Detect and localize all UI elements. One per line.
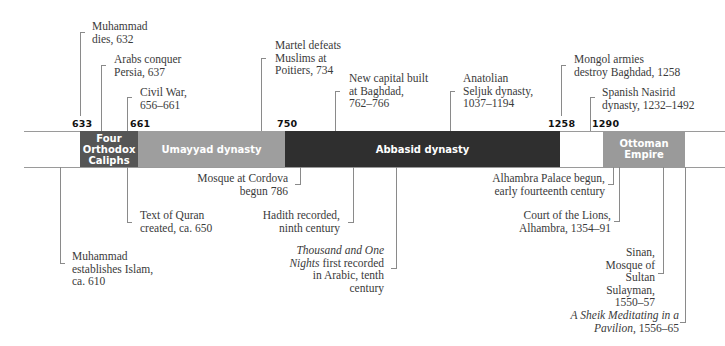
note-line: created, ca. 650 <box>140 222 212 235</box>
note-line: Pavilion, 1556–65 <box>571 322 679 335</box>
note-text: , 1556–65 <box>633 322 679 334</box>
note-line: Sulayman, <box>605 284 655 297</box>
note-line: destroy Baghdad, 1258 <box>574 66 680 79</box>
note-line: establishes Islam, <box>72 263 153 276</box>
note-line: Martel defeats <box>275 39 341 52</box>
year-marker-1290: 1290 <box>592 118 619 129</box>
note-line: century <box>289 282 384 295</box>
leader-line <box>561 65 562 116</box>
note-line: begun 786 <box>197 185 288 198</box>
note-line: 1037–1194 <box>463 97 533 110</box>
leader-line <box>127 97 132 98</box>
event-sinan-mosque: Sinan, Mosque of Sultan Sulayman, 1550–5… <box>605 246 655 309</box>
leader-line <box>101 65 106 66</box>
note-line: Alhambra Palace begun, <box>492 172 605 185</box>
leader-line <box>396 167 397 269</box>
note-line: Hadith recorded, <box>263 209 340 222</box>
year-marker-633: 633 <box>72 118 92 129</box>
leader-line <box>335 91 340 92</box>
event-martel-defeats-muslims: Martel defeats Muslims at Poitiers, 734 <box>275 39 341 77</box>
note-line: Court of the Lions, <box>519 209 611 222</box>
note-line: Mongol armies <box>574 53 680 66</box>
event-civil-war: Civil War, 656–661 <box>140 86 187 111</box>
leader-line <box>590 97 595 98</box>
leader-line <box>300 167 301 185</box>
leader-line <box>127 222 132 223</box>
era-abbasid-dynasty: Abbasid dynasty <box>285 131 560 167</box>
leader-line <box>353 167 354 223</box>
era-label: Abbasid dynasty <box>376 144 470 155</box>
event-quran-text: Text of Quran created, ca. 650 <box>140 209 212 234</box>
note-line: Spanish Nasirid <box>602 86 695 99</box>
note-line: Sinan, <box>605 246 655 259</box>
note-line: Arabs conquer <box>114 53 181 66</box>
leader-line <box>561 65 566 66</box>
note-line: Seljuk dynasty, <box>463 85 533 98</box>
note-line: dies, 632 <box>92 33 148 46</box>
note-line: Persia, 637 <box>114 66 181 79</box>
leader-line <box>608 184 613 185</box>
leader-line <box>60 167 61 264</box>
event-hadith-recorded: Hadith recorded, ninth century <box>263 209 340 234</box>
era-label-line: Orthodox <box>83 144 136 155</box>
leader-line <box>261 58 266 59</box>
event-muhammad-dies: Muhammad dies, 632 <box>92 20 148 45</box>
work-title: A Sheik Meditating in a <box>571 309 679 321</box>
leader-line <box>101 65 102 131</box>
era-ottoman-empire: Ottoman Empire <box>603 131 685 167</box>
leader-line <box>450 91 455 92</box>
note-line: Thousand and One <box>289 244 384 257</box>
work-title: Nights <box>289 257 319 269</box>
era-four-orthodox-caliphs: Four Orthodox Caliphs <box>80 131 138 167</box>
note-line: dynasty, 1232–1492 <box>602 99 695 112</box>
event-cordova-mosque: Mosque at Cordova begun 786 <box>197 172 288 197</box>
leader-line <box>80 32 81 116</box>
leader-line <box>60 263 65 264</box>
note-line: ninth century <box>263 222 340 235</box>
leader-line <box>348 222 353 223</box>
note-line: New capital built <box>349 72 428 85</box>
note-line: Anatolian <box>463 72 533 85</box>
note-line: 1550–57 <box>605 296 655 309</box>
note-line: Muhammad <box>72 250 153 263</box>
leader-line <box>619 167 620 222</box>
event-spanish-nasirid: Spanish Nasirid dynasty, 1232–1492 <box>602 86 695 111</box>
leader-line <box>663 167 664 274</box>
note-line: Civil War, <box>140 86 187 99</box>
work-title: Thousand and One <box>296 244 384 256</box>
era-label-line: Caliphs <box>83 155 136 166</box>
leader-line <box>391 268 396 269</box>
event-seljuk-dynasty: Anatolian Seljuk dynasty, 1037–1194 <box>463 72 533 110</box>
era-label-line: Ottoman <box>619 138 668 149</box>
note-line: Alhambra, 1354–91 <box>519 222 611 235</box>
leader-line <box>127 167 128 223</box>
note-line: Mosque at Cordova <box>197 172 288 185</box>
event-mongol-destroy-baghdad: Mongol armies destroy Baghdad, 1258 <box>574 53 680 78</box>
leader-line <box>590 97 591 131</box>
note-line: ca. 610 <box>72 275 153 288</box>
islamic-timeline: Four Orthodox Caliphs Umayyad dynasty Ab… <box>0 0 725 346</box>
era-umayyad-dynasty: Umayyad dynasty <box>138 131 285 167</box>
note-line: Sultan <box>605 271 655 284</box>
year-marker-1258: 1258 <box>548 118 575 129</box>
era-label: Umayyad dynasty <box>161 144 261 155</box>
leader-line <box>335 91 336 131</box>
era-label-line: Four <box>83 133 136 144</box>
event-sheik-meditating: A Sheik Meditating in a Pavilion, 1556–6… <box>571 309 679 334</box>
leader-line <box>261 58 262 131</box>
work-title: Pavilion <box>594 322 633 334</box>
note-line: Muhammad <box>92 20 148 33</box>
note-line: in Arabic, tenth <box>289 269 384 282</box>
leader-line <box>295 184 300 185</box>
event-alhambra-palace: Alhambra Palace begun, early fourteenth … <box>492 172 605 197</box>
note-line: 762–766 <box>349 97 428 110</box>
leader-line <box>613 167 614 185</box>
note-line: Poitiers, 734 <box>275 64 341 77</box>
leader-line <box>450 91 451 131</box>
note-line: Muslims at <box>275 52 341 65</box>
note-line: Nights first recorded <box>289 257 384 270</box>
leader-line <box>680 322 685 323</box>
leader-line <box>127 97 128 131</box>
note-line: Text of Quran <box>140 209 212 222</box>
note-line: A Sheik Meditating in a <box>571 309 679 322</box>
